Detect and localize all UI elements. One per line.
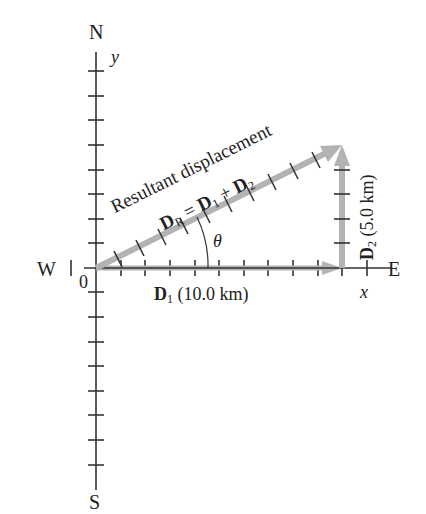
theta-label: θ	[213, 232, 222, 250]
d2-label: D2 (5.0 km)	[358, 175, 378, 261]
axes	[71, 52, 392, 490]
angle-arc	[197, 217, 208, 268]
y-axis-label: y	[111, 48, 119, 66]
x-axis-label: x	[360, 283, 368, 301]
origin-label: 0	[79, 273, 88, 291]
d1-label: D1 (10.0 km)	[154, 285, 249, 305]
north-label: N	[89, 22, 103, 42]
south-label: S	[89, 492, 100, 512]
east-label: E	[388, 259, 400, 279]
west-label: W	[37, 259, 56, 279]
vector-d2	[334, 145, 350, 268]
